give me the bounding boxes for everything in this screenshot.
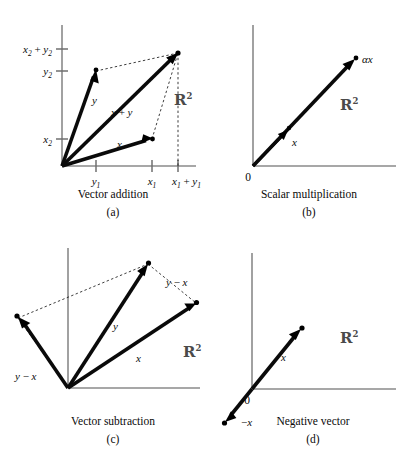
panel-a-veclabel-x: x xyxy=(116,138,122,150)
panel-b-point-x xyxy=(287,126,291,130)
panel-c-index: (c) xyxy=(107,433,120,446)
panel-c: y x y − x y − x R2 Vector subtraction (c… xyxy=(14,248,201,446)
panel-b-veclabel-alpha-x: αx xyxy=(362,53,373,65)
panel-a-caption: Vector addition xyxy=(78,188,149,200)
panel-a-veclabel-y: y xyxy=(91,94,97,106)
panel-d-point-minus-x xyxy=(222,420,227,425)
panel-a-point-x xyxy=(150,137,155,142)
panel-c-vector-x xyxy=(68,304,196,389)
panel-b-field-label: R2 xyxy=(340,96,358,114)
panel-a-veclabel-x-plus-y: x + y xyxy=(110,106,133,118)
panel-b-veclabel-x: x xyxy=(291,136,297,148)
panel-d-point-x xyxy=(299,325,304,330)
panel-b-point-alpha-x xyxy=(354,56,359,61)
panel-c-point-y xyxy=(146,260,151,265)
panel-b-index: (b) xyxy=(302,206,316,219)
panel-d-veclabel-minus-x: −x xyxy=(241,416,252,428)
panel-c-caption: Vector subtraction xyxy=(71,415,155,427)
panel-a-ylabel-y2: y2 xyxy=(42,65,52,80)
panel-b-caption: Scalar multiplication xyxy=(261,188,357,201)
panel-d-index: (d) xyxy=(306,433,320,446)
panel-a-point-sum xyxy=(175,50,180,55)
panel-c-point-x xyxy=(194,300,199,305)
panel-c-field-label: R2 xyxy=(183,343,201,361)
panel-a-xlabel-x1-plus-y1: x1 + y1 xyxy=(171,175,201,190)
panel-d-field-label: R2 xyxy=(340,329,358,347)
panel-b-origin-label: 0 xyxy=(245,171,251,183)
panel-c-veclabel-y-minus-x-upper: y − x xyxy=(165,276,188,288)
panel-b: x αx 0 R2 Scalar multiplication (b) xyxy=(245,25,396,219)
panel-c-dashed-upper-left xyxy=(18,264,148,318)
panel-d: x −x 0 R2 Negative vector (d) xyxy=(222,253,396,446)
panel-a-vector-y xyxy=(62,69,99,166)
figure-canvas: x2 + y2 y2 x2 y1 x1 x1 + y1 y x x + y xyxy=(0,0,406,464)
vector-operations-figure: x2 + y2 y2 x2 y1 x1 x1 + y1 y x x + y xyxy=(0,0,406,464)
panel-c-arrowhead-y-minus-x xyxy=(18,317,30,329)
panel-d-origin-label: 0 xyxy=(244,394,250,406)
panel-c-point-y-minus-x xyxy=(14,313,19,318)
panel-a: x2 + y2 y2 x2 y1 x1 x1 + y1 y x x + y xyxy=(22,25,201,219)
panel-a-dashed-y-to-sum xyxy=(96,53,178,71)
panel-a-ylabel-x2: x2 xyxy=(42,133,52,148)
panel-c-veclabel-y-minus-x-lower: y − x xyxy=(14,370,37,382)
panel-d-vector-x xyxy=(252,329,301,389)
panel-a-ylabel-x2-plus-y2: x2 + y2 xyxy=(22,43,52,58)
panel-b-vector-x xyxy=(253,130,288,166)
panel-a-field-label: R2 xyxy=(174,91,192,109)
panel-c-veclabel-x: x xyxy=(135,352,141,364)
panel-a-vector-x xyxy=(62,134,153,166)
panel-d-veclabel-x: x xyxy=(280,351,286,363)
panel-d-caption: Negative vector xyxy=(276,415,349,428)
panel-a-index: (a) xyxy=(107,206,120,219)
panel-a-point-y xyxy=(94,68,99,73)
panel-c-veclabel-y: y xyxy=(112,320,118,332)
panel-c-vector-y xyxy=(68,264,148,388)
